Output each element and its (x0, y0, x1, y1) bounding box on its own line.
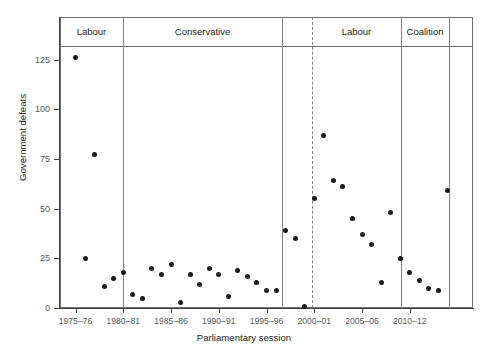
data-point (340, 184, 345, 189)
x-tick-label-5: 2000–01 (298, 316, 331, 326)
data-point (350, 216, 355, 221)
x-tick-label-0: 1975–76 (59, 316, 92, 326)
data-point (360, 232, 365, 237)
data-point (121, 270, 126, 275)
data-point (73, 55, 78, 60)
data-point (226, 294, 231, 299)
government-defeats-scatter-chart: 0255075100125 1975–761980–811985–861990–… (0, 0, 488, 356)
y-tick-125 (54, 60, 59, 61)
plot-border-left (60, 17, 61, 308)
data-point (321, 133, 326, 138)
y-axis-title: Government defeats (17, 18, 28, 258)
band-label-conservative: Conservative (123, 22, 282, 42)
y-tick-50 (54, 209, 59, 210)
data-point (178, 300, 183, 305)
data-point (235, 268, 240, 273)
data-point (159, 272, 164, 277)
data-point (254, 280, 259, 285)
period-divider-4 (449, 17, 450, 308)
x-tick-label-7: 2010–12 (393, 316, 426, 326)
period-divider-3 (401, 17, 402, 308)
x-tick-label-2: 1985–86 (154, 316, 187, 326)
data-point (293, 236, 298, 241)
data-point (331, 178, 336, 183)
data-point (102, 284, 107, 289)
data-point (417, 278, 422, 283)
x-tick-2 (171, 308, 172, 313)
y-tick-0 (54, 308, 59, 309)
x-tick-label-1: 1980–81 (107, 316, 140, 326)
plot-border-bottom (60, 307, 473, 308)
data-point (83, 256, 88, 261)
x-axis-title: Parliamentary session (0, 332, 488, 343)
data-point (407, 270, 412, 275)
x-tick-0 (76, 308, 77, 313)
data-point (130, 292, 135, 297)
y-tick-100 (54, 109, 59, 110)
data-point (379, 280, 384, 285)
plot-area: LabourConservativeLabourCoalition (60, 17, 473, 308)
x-tick-label-4: 1995–96 (250, 316, 283, 326)
data-point (140, 296, 145, 301)
data-point (188, 272, 193, 277)
data-point (274, 288, 279, 293)
x-tick-4 (267, 308, 268, 313)
y-tick-75 (54, 159, 59, 160)
plot-border-top (60, 17, 473, 18)
x-tick-1 (123, 308, 124, 313)
period-divider-1 (282, 17, 283, 308)
data-point (111, 276, 116, 281)
plot-border-right (472, 17, 473, 308)
data-point (369, 242, 374, 247)
data-point (207, 266, 212, 271)
y-tick-25 (54, 258, 59, 259)
x-tick-label-3: 1990–91 (202, 316, 235, 326)
band-label-coalition: Coalition (401, 22, 449, 42)
x-tick-7 (410, 308, 411, 313)
data-point (149, 266, 154, 271)
data-point (302, 304, 307, 309)
data-point (283, 228, 288, 233)
x-tick-label-6: 2005–06 (345, 316, 378, 326)
period-divider-0 (123, 17, 124, 308)
data-point (216, 272, 221, 277)
data-point (245, 274, 250, 279)
x-tick-3 (219, 308, 220, 313)
data-point (388, 210, 393, 215)
x-tick-6 (362, 308, 363, 313)
data-point (398, 256, 403, 261)
band-label-labour: Labour (312, 22, 401, 42)
y-tick-label-0: 0 (10, 303, 50, 313)
data-point (169, 262, 174, 267)
data-point (264, 288, 269, 293)
data-point (197, 282, 202, 287)
x-tick-5 (314, 308, 315, 313)
data-point (436, 288, 441, 293)
data-point (92, 152, 97, 157)
band-separator-line (60, 46, 473, 47)
data-point (312, 196, 317, 201)
data-point (426, 286, 431, 291)
period-divider-2 (312, 17, 313, 308)
band-label-labour: Labour (60, 22, 123, 42)
